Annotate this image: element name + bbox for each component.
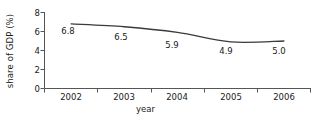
x-tick-label-2003: 2003 (104, 92, 144, 102)
x-tick-label-2004: 2004 (157, 92, 197, 102)
data-label-2006: 5.0 (266, 46, 292, 56)
data-label-2005: 4.9 (213, 46, 239, 56)
x-tick-label-2002: 2002 (51, 92, 91, 102)
x-axis-title: year (136, 104, 155, 114)
data-label-2003: 6.5 (108, 32, 134, 42)
x-tick-label-2005: 2005 (211, 92, 251, 102)
chart-container: share of GDP (%) 8 6 4 2 0 2002 2003 200… (0, 0, 321, 119)
data-label-2002: 6.8 (55, 26, 81, 36)
data-label-2004: 5.9 (159, 40, 185, 50)
x-tick-label-2006: 2006 (264, 92, 304, 102)
